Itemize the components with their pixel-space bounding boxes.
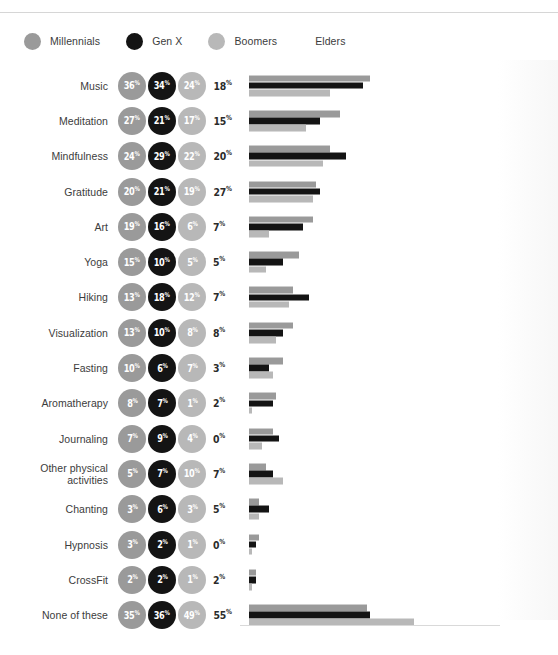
- row-label: Yoga: [0, 256, 108, 269]
- bar-genx: [249, 259, 283, 266]
- bubble-value-millennials: 35%: [124, 610, 140, 621]
- elders-value: 7%: [212, 220, 226, 233]
- chart-row: Chanting3%6%3%5%: [0, 492, 558, 527]
- row-label: Other physical activities: [0, 461, 108, 486]
- bubble-value-boomers: 1%: [187, 398, 197, 409]
- bubble-genx: 2%: [148, 566, 176, 594]
- bubble-value-genx: 7%: [157, 468, 167, 479]
- bubble-value-boomers: 8%: [187, 327, 197, 338]
- legend-item-boomers: Boomers: [208, 33, 277, 50]
- legend-item-elders: Elders: [315, 35, 345, 47]
- bubble-value-genx: 2%: [157, 574, 167, 585]
- bubble-boomers: 5%: [178, 248, 206, 276]
- bottom-divider: [240, 625, 500, 626]
- bubble-millennials: 15%: [118, 248, 146, 276]
- row-label: None of these: [0, 609, 108, 622]
- chart-row: Music36%34%24%18%: [0, 68, 558, 103]
- bar-boomers: [249, 513, 259, 520]
- bubble-value-millennials: 13%: [124, 327, 140, 338]
- bubble-value-genx: 16%: [154, 221, 170, 232]
- bar-genx: [249, 329, 283, 336]
- bubble-value-boomers: 17%: [184, 115, 200, 126]
- legend-swatch-boomers: [208, 33, 225, 50]
- infographic-page: Millennials Gen X Boomers Elders Music36…: [0, 0, 558, 655]
- bubble-boomers: 1%: [178, 389, 206, 417]
- bubble-millennials: 10%: [118, 354, 146, 382]
- chart-row: Mindfulness24%29%22%20%: [0, 139, 558, 174]
- bubble-genx: 21%: [148, 107, 176, 135]
- bubble-value-millennials: 7%: [127, 433, 137, 444]
- bubble-value-genx: 10%: [154, 327, 170, 338]
- bar-genx: [249, 294, 309, 301]
- row-bars: [249, 605, 549, 626]
- bubble-value-boomers: 22%: [184, 151, 200, 162]
- row-bubbles: 20%21%19%: [118, 178, 208, 206]
- row-bars: [249, 216, 549, 237]
- bubble-boomers: 1%: [178, 531, 206, 559]
- bubble-value-genx: 21%: [154, 186, 170, 197]
- row-label: Meditation: [0, 115, 108, 128]
- bar-millennials: [249, 569, 256, 576]
- legend-item-millennials: Millennials: [24, 33, 100, 50]
- legend-item-genx: Gen X: [126, 33, 182, 50]
- bubble-millennials: 13%: [118, 283, 146, 311]
- bubble-value-genx: 29%: [154, 151, 170, 162]
- bubble-value-millennials: 20%: [124, 186, 140, 197]
- bubble-value-genx: 36%: [154, 610, 170, 621]
- bar-boomers: [249, 160, 323, 167]
- row-label: Chanting: [0, 503, 108, 516]
- row-bars: [249, 75, 549, 96]
- bubble-millennials: 27%: [118, 107, 146, 135]
- bubble-value-genx: 9%: [157, 433, 167, 444]
- bubble-value-genx: 2%: [157, 539, 167, 550]
- row-label: Hypnosis: [0, 538, 108, 551]
- elders-value: 2%: [212, 573, 226, 586]
- row-label: Gratitude: [0, 185, 108, 198]
- row-label: Visualization: [0, 326, 108, 339]
- bubble-value-boomers: 24%: [184, 80, 200, 91]
- bubble-boomers: 12%: [178, 283, 206, 311]
- row-bars: [249, 534, 549, 555]
- bubble-value-boomers: 4%: [187, 433, 197, 444]
- elders-value: 7%: [212, 467, 226, 480]
- chart-row: Yoga15%10%5%5%: [0, 244, 558, 279]
- bubble-value-genx: 18%: [154, 292, 170, 303]
- row-bubbles: 36%34%24%: [118, 72, 208, 100]
- row-bubbles: 15%10%5%: [118, 248, 208, 276]
- bubble-value-millennials: 8%: [127, 398, 137, 409]
- chart-rows: Music36%34%24%18%Meditation27%21%17%15%M…: [0, 68, 558, 633]
- bar-genx: [249, 541, 256, 548]
- bar-millennials: [249, 216, 313, 223]
- row-bars: [249, 393, 549, 414]
- bubble-value-millennials: 24%: [124, 151, 140, 162]
- bubble-boomers: 49%: [178, 601, 206, 629]
- row-bubbles: 2%2%1%: [118, 566, 208, 594]
- bar-boomers: [249, 337, 276, 344]
- elders-value: 8%: [212, 326, 226, 339]
- legend: Millennials Gen X Boomers Elders: [24, 31, 372, 51]
- bar-millennials: [249, 428, 273, 435]
- elders-value: 0%: [212, 538, 226, 551]
- bubble-boomers: 1%: [178, 566, 206, 594]
- bubble-value-genx: 34%: [154, 80, 170, 91]
- bubble-boomers: 10%: [178, 460, 206, 488]
- bar-millennials: [249, 322, 293, 329]
- bubble-boomers: 22%: [178, 142, 206, 170]
- bar-genx: [249, 118, 320, 125]
- bubble-boomers: 17%: [178, 107, 206, 135]
- chart-row: Gratitude20%21%19%27%: [0, 174, 558, 209]
- bubble-millennials: 20%: [118, 178, 146, 206]
- bar-genx: [249, 577, 256, 584]
- bar-genx: [249, 365, 269, 372]
- row-label: Aromatherapy: [0, 397, 108, 410]
- row-bubbles: 8%7%1%: [118, 389, 208, 417]
- bar-boomers: [249, 407, 252, 414]
- bubble-genx: 7%: [148, 389, 176, 417]
- row-bars: [249, 287, 549, 308]
- row-bubbles: 24%29%22%: [118, 142, 208, 170]
- bar-genx: [249, 400, 273, 407]
- row-bubbles: 5%7%10%: [118, 460, 208, 488]
- row-label: CrossFit: [0, 574, 108, 587]
- bubble-value-boomers: 12%: [184, 292, 200, 303]
- elders-value: 20%: [212, 150, 233, 163]
